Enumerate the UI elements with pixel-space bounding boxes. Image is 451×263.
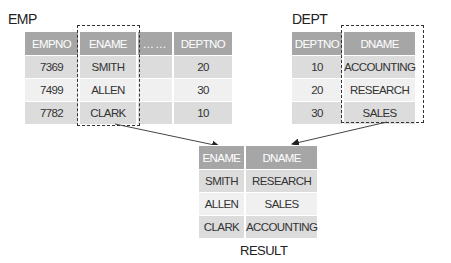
result-table-label: RESULT xyxy=(240,243,287,258)
table-row: SMITH RESEARCH xyxy=(199,169,317,192)
result-table: ENAME DNAME SMITH RESEARCH ALLEN SALES C… xyxy=(197,145,319,238)
cell: RESEARCH xyxy=(246,169,317,192)
arrow-right xyxy=(292,122,387,144)
cell: SMITH xyxy=(199,169,244,192)
cell: SALES xyxy=(246,192,317,215)
result-col-ename: ENAME xyxy=(199,145,244,169)
table-row: CLARK ACCOUNTING xyxy=(199,215,317,238)
cell: ACCOUNTING xyxy=(246,215,317,238)
cell: ALLEN xyxy=(199,192,244,215)
arrow-left xyxy=(115,124,219,146)
result-col-dname: DNAME xyxy=(246,145,317,169)
table-row: ALLEN SALES xyxy=(199,192,317,215)
cell: CLARK xyxy=(199,215,244,238)
